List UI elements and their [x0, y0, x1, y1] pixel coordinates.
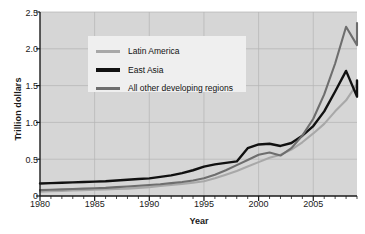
x-axis-tick-label: 1980 [20, 199, 60, 209]
legend-swatch-icon [96, 68, 120, 72]
x-axis-tick-label: 1985 [75, 199, 115, 209]
x-axis-title: Year [40, 216, 358, 226]
y-axis-title: Trillion dollars [13, 49, 23, 169]
legend-label: Latin America [128, 46, 180, 56]
legend-label: East Asia [128, 65, 163, 75]
legend-item-east-asia: East Asia [96, 63, 163, 77]
legend-label: All other developing regions [128, 83, 233, 93]
x-axis-tick-label: 1990 [129, 199, 169, 209]
x-axis-tick-label: 2005 [293, 199, 333, 209]
legend-item-all-other-developing-regions: All other developing regions [96, 81, 233, 95]
legend-item-latin-america: Latin America [96, 44, 180, 58]
chart-container: 2.5 2.0 1.5 1.0 0.5 0 Trillion dollars 1… [0, 0, 365, 234]
x-axis-tick-label: 1995 [184, 199, 224, 209]
x-axis-tick-label: 2000 [239, 199, 279, 209]
legend-swatch-icon [96, 87, 120, 90]
legend-swatch-icon [96, 50, 120, 53]
chart-legend: Latin America East Asia All other develo… [88, 36, 246, 92]
y-axis-tick-label: 2.5 [14, 8, 38, 18]
